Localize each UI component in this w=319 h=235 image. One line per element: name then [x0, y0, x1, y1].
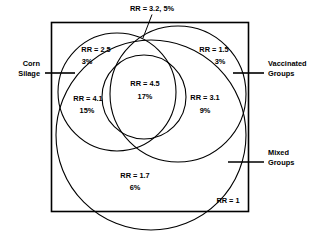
region-label-corn-silage-and-mixed-rr: RR = 4.1: [73, 94, 102, 103]
venn-svg: RR = 3.2, 5% Corn Silage Vaccinated Grou…: [0, 0, 319, 235]
region-label-vaccinated-only-rr: RR = 1.5: [199, 45, 228, 54]
region-label-corn-silage-only-rr: RR = 2.5: [81, 45, 110, 54]
region-label-mixed-only-percent: 6%: [130, 183, 141, 192]
region-label-mixed-only-rr: RR = 1.7: [120, 171, 149, 180]
region-label-vaccinated-and-mixed-percent: 9%: [200, 106, 211, 115]
region-label-corn-silage-and-mixed-percent: 15%: [80, 106, 95, 115]
venn-figure: RR = 3.2, 5% Corn Silage Vaccinated Grou…: [0, 0, 319, 235]
set-label-vaccinated-groups-line1: Vaccinated: [268, 59, 307, 68]
leader-line-top-callout: [143, 15, 152, 39]
region-label-vaccinated-only-percent: 3%: [215, 57, 226, 66]
region-label-all-three-percent: 17%: [138, 92, 153, 101]
set-label-corn-silage-line1: Corn: [23, 59, 41, 68]
circle-corn-silage: [58, 33, 176, 151]
region-label-corn-silage-only-percent: 3%: [82, 57, 93, 66]
region-label-vaccinated-and-mixed-rr: RR = 3.1: [190, 93, 219, 102]
set-label-vaccinated-groups-line2: Groups: [268, 69, 294, 78]
baseline-label: RR = 1: [216, 196, 239, 205]
set-label-corn-silage-line2: Silage: [18, 69, 40, 78]
set-label-mixed-groups-line2: Groups: [268, 158, 294, 167]
set-label-mixed-groups-line1: Mixed: [268, 148, 289, 157]
region-label-corn-silage-and-vaccinated: RR = 3.2, 5%: [130, 4, 175, 13]
region-label-all-three-rr: RR = 4.5: [130, 79, 159, 88]
